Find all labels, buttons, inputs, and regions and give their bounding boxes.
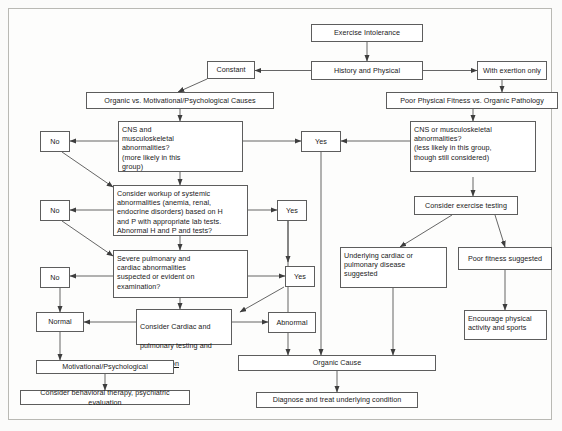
node-label: Poor Physical Fitness vs. Organic Pathol…: [400, 96, 544, 105]
node-label: Normal: [48, 317, 71, 326]
node-consider-workup: Consider workup of systemic abnormalitie…: [113, 185, 248, 236]
node-normal: Normal: [36, 312, 84, 332]
node-label: Consider workup of systemic abnormalitie…: [117, 189, 223, 235]
node-underlying-cardiac-pulmonary: Underlying cardiac or pulmonary disease …: [340, 247, 447, 288]
node-diagnose-and-treat: Diagnose and treat underlying condition: [256, 392, 418, 408]
node-label: Yes: [286, 206, 298, 215]
node-poor-fitness-vs-organic: Poor Physical Fitness vs. Organic Pathol…: [386, 92, 558, 109]
node-yes-2: Yes: [277, 200, 307, 221]
node-cns-less-likely: CNS or musculoskeletal abnormalities? (l…: [410, 121, 536, 172]
node-constant: Constant: [207, 61, 255, 79]
flowchart-page: Exercise Intolerance History and Physica…: [0, 0, 562, 431]
node-label: Organic Cause: [313, 358, 362, 367]
node-label: Constant: [216, 65, 245, 74]
node-yes-3: Yes: [285, 266, 315, 287]
node-abnormal: Abnormal: [268, 312, 316, 333]
node-label: Encourage physical activity and sports: [468, 314, 532, 332]
node-motivational-psychological: Motivational/Psychological: [36, 360, 174, 374]
node-label: Yes: [315, 137, 327, 146]
node-label: No: [50, 273, 59, 282]
node-label: Exercise Intolerance: [334, 28, 400, 37]
node-no-2: No: [40, 200, 70, 221]
node-label: Abnormal: [276, 318, 307, 327]
node-label: Organic vs. Motivational/Psychological C…: [104, 96, 255, 105]
node-label: Motivational/Psychological: [62, 362, 148, 371]
node-label: No: [50, 206, 59, 215]
node-label: With exertion only: [483, 66, 541, 75]
node-no-3: No: [40, 267, 70, 288]
node-severe-pulmonary-cardiac: Severe pulmonary and cardiac abnormaliti…: [113, 250, 248, 298]
node-consider-cardiac-pulmonary: Consider Cardiac and pulmonary testing a…: [136, 309, 232, 345]
node-organic-vs-motivational: Organic vs. Motivational/Psychological C…: [86, 92, 274, 109]
node-organic-cause: Organic Cause: [238, 355, 436, 371]
node-label-line-2: pulmonary testing and: [140, 341, 228, 350]
node-exercise-intolerance: Exercise Intolerance: [311, 24, 423, 42]
node-poor-fitness-suggested: Poor fitness suggested: [458, 247, 552, 270]
node-yes-1: Yes: [301, 131, 341, 152]
node-label: Diagnose and treat underlying condition: [273, 395, 402, 404]
node-label: Underlying cardiac or pulmonary disease …: [344, 251, 413, 279]
node-label: No: [50, 137, 59, 146]
node-label: Yes: [294, 272, 306, 281]
node-label: Severe pulmonary and cardiac abnormaliti…: [117, 254, 194, 291]
node-label: History and Physical: [334, 66, 400, 75]
node-label: Consider exercise testing: [425, 201, 507, 210]
node-label: CNS or musculoskeletal abnormalities? (l…: [414, 125, 492, 162]
node-consider-behavioral-therapy: Consider behavioral therapy, psychiatric…: [20, 390, 190, 405]
node-consider-exercise-testing: Consider exercise testing: [414, 196, 518, 215]
node-label-line-1: Consider Cardiac and: [140, 322, 228, 331]
node-no-1: No: [40, 131, 70, 152]
node-label: Consider behavioral therapy, psychiatric…: [24, 388, 186, 406]
node-with-exertion-only: With exertion only: [477, 61, 547, 80]
node-label: Poor fitness suggested: [468, 254, 542, 263]
node-label: CNS and musculoskeletal abnormalities? (…: [122, 125, 181, 171]
node-cns-more-likely: CNS and musculoskeletal abnormalities? (…: [118, 121, 243, 172]
node-history-and-physical: History and Physical: [311, 61, 423, 80]
node-encourage-physical-activity: Encourage physical activity and sports: [464, 310, 547, 340]
